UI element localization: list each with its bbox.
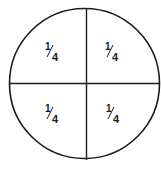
quadrant-label-bottom-left: 1 4 <box>45 103 59 125</box>
quadrant-label-top-left: 1 4 <box>45 41 59 63</box>
quadrant-label-bottom-right: 1 4 <box>106 103 120 125</box>
svg-text:4: 4 <box>113 113 120 125</box>
svg-text:4: 4 <box>52 51 59 63</box>
svg-text:4: 4 <box>112 51 119 63</box>
fraction-circle-diagram: 1 4 1 4 1 4 1 4 <box>0 0 161 171</box>
svg-text:4: 4 <box>52 113 59 125</box>
quadrant-label-top-right: 1 4 <box>105 41 119 63</box>
